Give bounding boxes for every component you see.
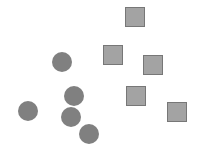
scatter-point-square-2 xyxy=(103,45,123,65)
scatter-point-circle-4 xyxy=(79,124,99,144)
scatter-point-square-1 xyxy=(125,7,145,27)
scatter-point-circle-1 xyxy=(52,52,72,72)
scatter-point-square-4 xyxy=(126,86,146,106)
scatter-point-square-3 xyxy=(143,55,163,75)
scatter-point-square-5 xyxy=(167,102,187,122)
scatter-point-circle-5 xyxy=(18,101,38,121)
scatter-plot-canvas xyxy=(0,0,197,154)
scatter-point-circle-3 xyxy=(61,107,81,127)
scatter-point-circle-2 xyxy=(64,86,84,106)
